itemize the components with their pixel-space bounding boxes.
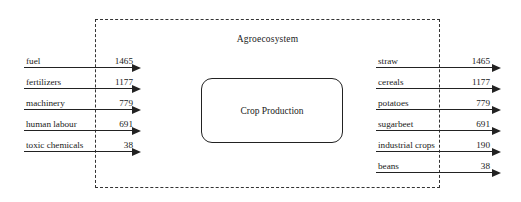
output-flow-value: 691 [476,119,490,129]
input-flow-value: 691 [119,119,133,129]
process-box-label: Crop Production [240,106,303,116]
input-flow-value: 1177 [115,77,133,87]
output-flow-row: sugarbeet 691 [376,110,504,131]
input-flow-line [24,151,132,152]
input-flow-row: toxic chemicals 38 [24,131,141,152]
output-flow-label: potatoes [378,98,409,108]
output-flow-row: beans 38 [376,152,504,173]
output-flow-value: 190 [476,140,490,150]
output-flow-row: potatoes 779 [376,89,504,110]
input-flow-row: fuel 1465 [24,47,141,68]
output-flow-value: 1177 [472,77,490,87]
boundary-title: Agroecosystem [95,34,440,44]
input-flow-row: fertilizers 1177 [24,68,141,89]
process-box-crop-production: Crop Production [201,78,343,143]
input-flow-label: machinery [26,98,65,108]
input-flow-value: 779 [119,98,133,108]
input-flow-label: toxic chemicals [26,140,83,150]
output-flow-arrowhead [492,169,501,177]
agroecosystem-flow-diagram: Agroecosystem Crop Production fuel 1465 … [0,0,521,202]
input-flow-value: 1465 [115,56,133,66]
output-flow-label: straw [378,56,398,66]
input-flow-label: fuel [26,56,40,66]
output-flow-row: cereals 1177 [376,68,504,89]
output-flow-value: 779 [476,98,490,108]
output-flow-value: 1465 [472,56,490,66]
output-flow-line [376,172,492,173]
output-flow-value: 38 [481,161,490,171]
output-flow-label: sugarbeet [378,119,413,129]
output-flow-row: straw 1465 [376,47,504,68]
input-flow-row: human labour 691 [24,110,141,131]
input-flow-label: fertilizers [26,77,61,87]
output-flow-label: cereals [378,77,404,87]
output-flow-label: industrial crops [378,140,435,150]
input-flow-label: human labour [26,119,77,129]
input-flow-arrowhead [132,148,141,156]
output-flow-row: industrial crops 190 [376,131,504,152]
output-flow-label: beans [378,161,399,171]
input-flow-row: machinery 779 [24,89,141,110]
